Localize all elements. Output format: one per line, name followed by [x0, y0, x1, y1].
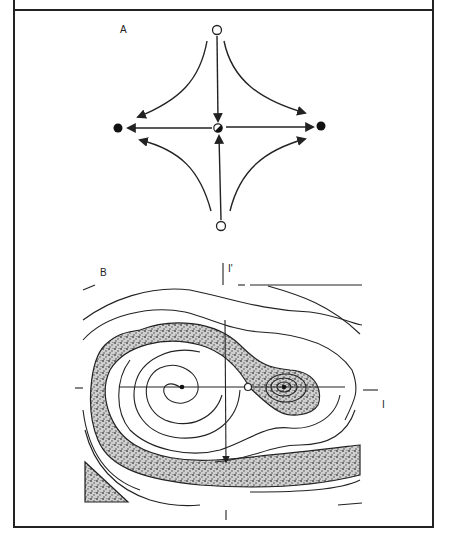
trajectory-bottom-to-center	[219, 136, 221, 220]
figure-canvas: A B I' I	[0, 0, 450, 539]
trajectory-fragment-top-left	[83, 285, 95, 290]
panel-a-label: A	[120, 24, 127, 35]
unstable-point-bottom	[217, 222, 226, 231]
trajectory-outer-top-1	[83, 289, 362, 325]
stable-point-left	[114, 124, 123, 133]
trajectory-curve-bottom-right	[230, 139, 305, 211]
trajectory-fragment-bottom-right	[338, 503, 362, 505]
saddle-point-center	[214, 124, 222, 132]
stable-point-right-spiral	[282, 385, 287, 390]
stable-point-left-spiral	[180, 385, 185, 390]
panel-b: B I' I	[75, 263, 385, 520]
panel-a: A	[114, 24, 326, 231]
axis-label-i: I	[382, 399, 385, 410]
saddle-point	[245, 384, 252, 391]
spiral-left-middle	[134, 350, 240, 438]
trajectory-curve-top-left	[138, 41, 207, 117]
trajectory-curve-bottom-left	[140, 140, 211, 211]
axis-label-i-prime: I'	[228, 263, 233, 274]
trajectory-top-to-center	[217, 36, 218, 121]
stable-point-right	[317, 122, 326, 131]
panel-b-label: B	[100, 267, 107, 278]
unstable-point-top	[213, 26, 222, 35]
trajectory-curve-top-right	[224, 41, 305, 113]
spiral-left-inner	[146, 365, 222, 423]
